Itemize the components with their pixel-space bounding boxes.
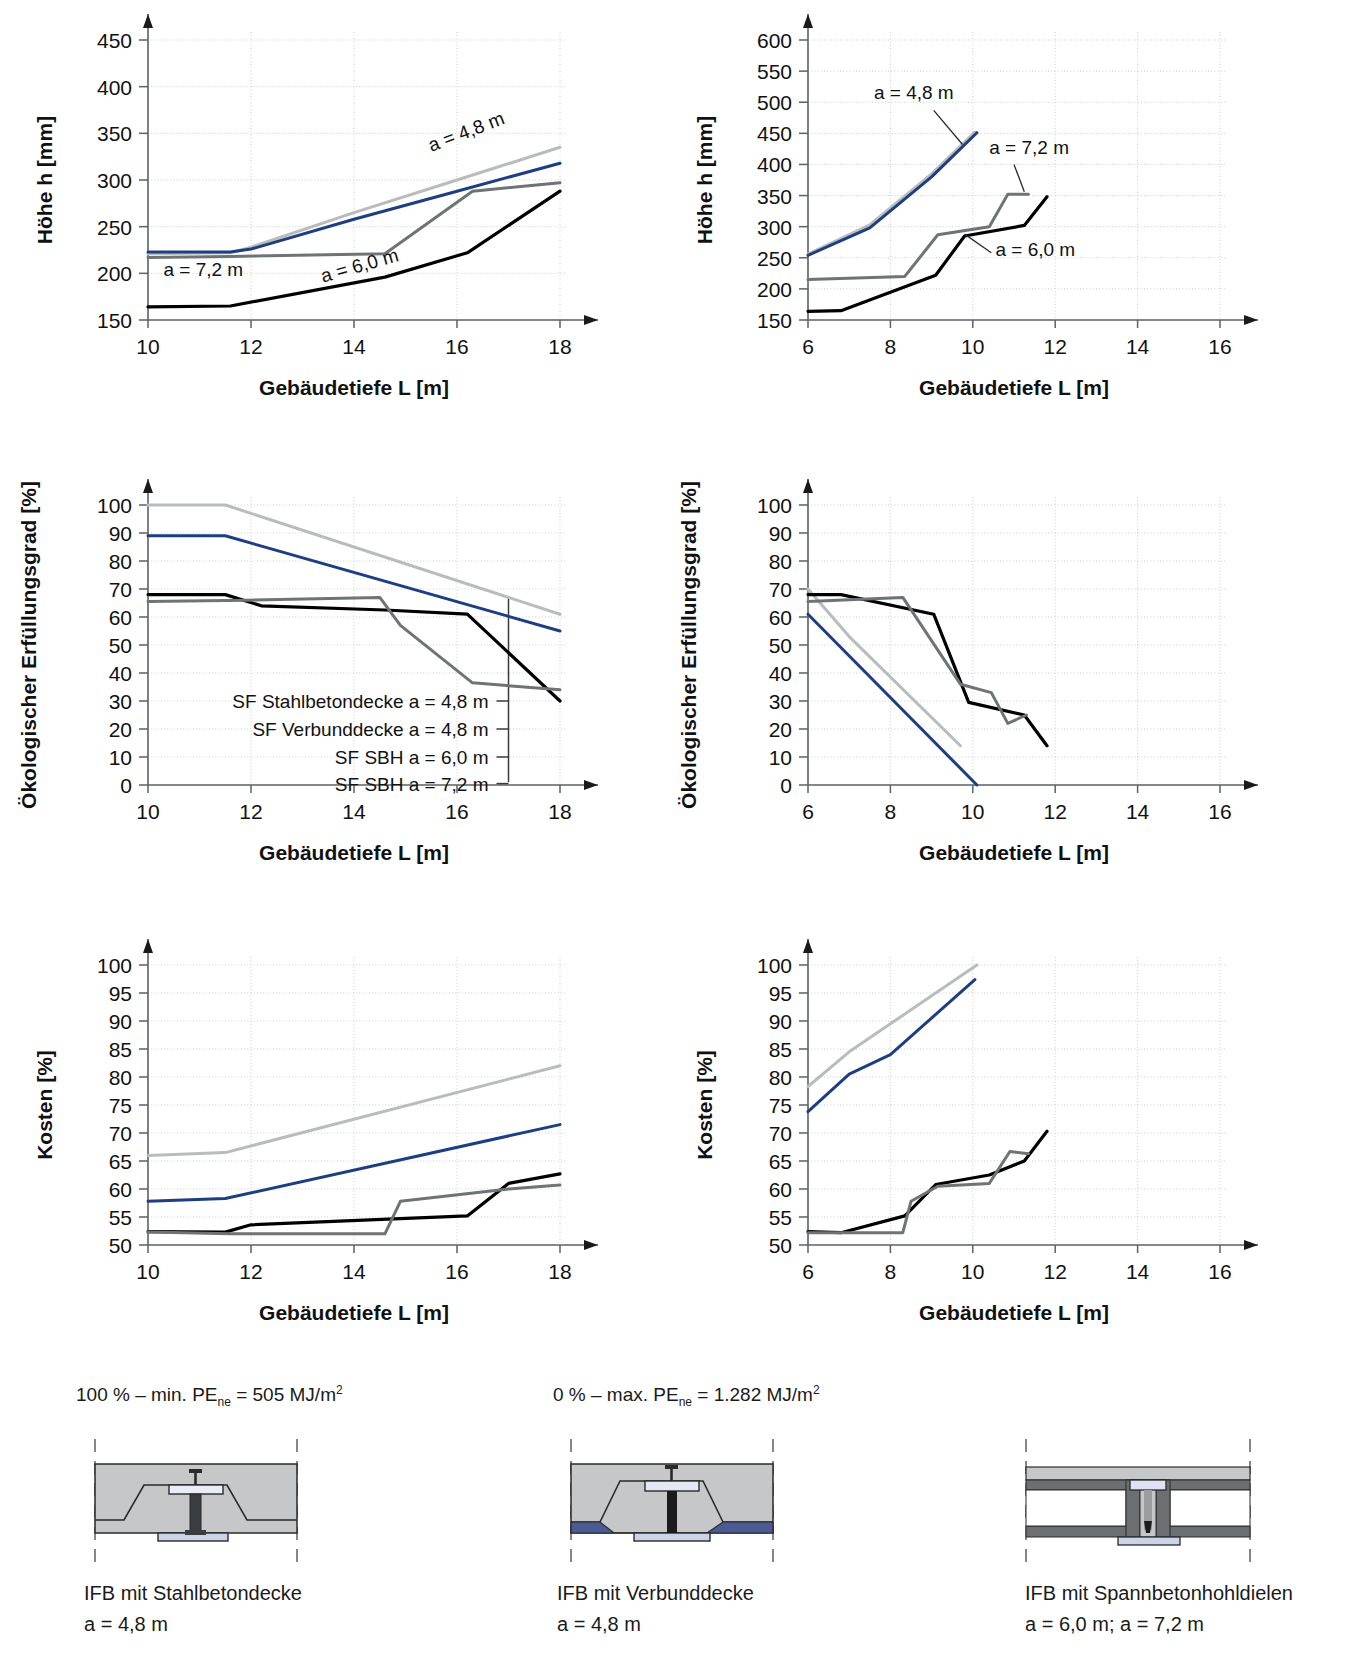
y-axis-arrow — [803, 939, 813, 953]
hollow-core-void-left — [1026, 1490, 1126, 1526]
x-tick-label: 12 — [1044, 335, 1067, 358]
x-tick-label: 14 — [1126, 335, 1150, 358]
kosten-rechts-svg: 505560657075808590951006810121416Gebäude… — [660, 925, 1320, 1390]
y-tick-label: 150 — [757, 309, 792, 332]
y-axis-title: Höhe h [mm] — [693, 116, 716, 244]
bottom-flange-plate — [634, 1533, 710, 1541]
y-tick-label: 400 — [757, 153, 792, 176]
y-tick-label: 40 — [769, 662, 792, 685]
y-tick-label: 85 — [769, 1038, 792, 1061]
y-axis-title: Höhe h [mm] — [33, 116, 56, 244]
y-tick-label: 65 — [769, 1150, 792, 1173]
chart-oeko-rechts: 01020304050607080901006810121416Gebäudet… — [660, 465, 1320, 930]
oeko-links-svg: 01020304050607080901001012141618Gebäudet… — [0, 465, 660, 930]
x-tick-label: 16 — [1208, 800, 1231, 823]
y-tick-label: 20 — [109, 718, 132, 741]
stud-head — [665, 1465, 678, 1469]
series-line-stahlbeton — [808, 589, 960, 746]
x-axis-arrow — [584, 1240, 598, 1250]
web — [190, 1494, 201, 1533]
y-tick-label: 40 — [109, 662, 132, 685]
y-tick-label: 75 — [769, 1094, 792, 1117]
y-tick-label: 250 — [757, 247, 792, 270]
y-tick-label: 300 — [97, 169, 132, 192]
y-tick-label: 75 — [109, 1094, 132, 1117]
chart-hoehe-links: 1502002503003504004501012141618Gebäudeti… — [0, 0, 660, 465]
chart-kosten-rechts: 505560657075808590951006810121416Gebäude… — [660, 925, 1320, 1390]
y-tick-label: 90 — [109, 1010, 132, 1033]
y-axis-title: Ökologischer Erfüllungsgrad [%] — [677, 481, 700, 809]
y-tick-label: 100 — [757, 954, 792, 977]
note-min-pe: 100 % – min. PEne = 505 MJ/m2 — [76, 1383, 343, 1409]
annotation-label: a = 6,0 m — [995, 239, 1075, 260]
y-tick-label: 50 — [769, 634, 792, 657]
web — [667, 1491, 677, 1533]
y-tick-label: 30 — [769, 690, 792, 713]
x-axis-arrow — [1244, 780, 1258, 790]
y-tick-label: 30 — [109, 690, 132, 713]
x-axis-arrow — [1244, 315, 1258, 325]
y-tick-label: 95 — [109, 982, 132, 1005]
y-axis-arrow — [143, 939, 153, 953]
y-tick-label: 100 — [757, 494, 792, 517]
y-axis-arrow — [803, 14, 813, 28]
legend-item-label: SF Stahlbetondecke a = 4,8 m — [232, 691, 488, 712]
y-tick-label: 450 — [757, 122, 792, 145]
y-tick-label: 80 — [769, 550, 792, 573]
caption-ifb-stahlbetondecke: IFB mit Stahlbetondecke a = 4,8 m — [84, 1578, 302, 1640]
y-tick-label: 90 — [769, 522, 792, 545]
x-tick-label: 12 — [239, 800, 262, 823]
y-tick-label: 55 — [769, 1206, 792, 1229]
series-line-verbund — [808, 614, 977, 785]
y-tick-label: 200 — [757, 278, 792, 301]
x-tick-label: 14 — [1126, 800, 1150, 823]
caption-ifb-verbunddecke: IFB mit Verbunddecke a = 4,8 m — [557, 1578, 754, 1640]
annotation-leader — [934, 110, 963, 144]
y-tick-label: 90 — [109, 522, 132, 545]
x-tick-label: 14 — [342, 800, 366, 823]
x-axis-title: Gebäudetiefe L [m] — [919, 376, 1109, 399]
y-tick-label: 150 — [97, 309, 132, 332]
y-tick-label: 65 — [109, 1150, 132, 1173]
topping-layer — [1026, 1467, 1250, 1480]
y-axis-arrow — [143, 14, 153, 28]
hoehe-rechts-svg: 1502002503003504004505005506006810121416… — [660, 0, 1320, 465]
y-tick-label: 550 — [757, 60, 792, 83]
legend-item-label: SF SBH a = 7,2 m — [335, 774, 489, 795]
y-tick-label: 70 — [109, 578, 132, 601]
x-tick-label: 6 — [802, 800, 814, 823]
y-tick-label: 400 — [97, 76, 132, 99]
y-tick-label: 350 — [757, 185, 792, 208]
caption-line-1: IFB mit Spannbetonhohldielen — [1025, 1578, 1293, 1609]
x-tick-label: 8 — [885, 335, 897, 358]
kosten-links-svg: 505560657075808590951001012141618Gebäude… — [0, 925, 660, 1390]
x-tick-label: 10 — [961, 1260, 984, 1283]
x-tick-label: 8 — [885, 800, 897, 823]
y-tick-label: 0 — [780, 774, 792, 797]
x-tick-label: 10 — [961, 800, 984, 823]
y-tick-label: 10 — [769, 746, 792, 769]
y-axis-arrow — [803, 479, 813, 493]
x-tick-label: 10 — [136, 1260, 159, 1283]
annotation-leader — [965, 234, 992, 253]
x-tick-label: 10 — [136, 335, 159, 358]
annotation-leader — [1014, 164, 1024, 191]
top-flange — [169, 1485, 223, 1494]
x-tick-label: 12 — [239, 1260, 262, 1283]
caption-line-2: a = 4,8 m — [84, 1609, 302, 1640]
y-tick-label: 250 — [97, 216, 132, 239]
y-tick-label: 20 — [769, 718, 792, 741]
x-tick-label: 14 — [342, 335, 366, 358]
y-axis-arrow — [143, 479, 153, 493]
y-tick-label: 500 — [757, 91, 792, 114]
y-tick-label: 10 — [109, 746, 132, 769]
caption-line-2: a = 6,0 m; a = 7,2 m — [1025, 1609, 1293, 1640]
x-tick-label: 16 — [1208, 1260, 1231, 1283]
y-tick-label: 50 — [109, 634, 132, 657]
x-tick-label: 16 — [445, 800, 468, 823]
y-tick-label: 95 — [769, 982, 792, 1005]
x-tick-label: 6 — [802, 335, 814, 358]
y-tick-label: 55 — [109, 1206, 132, 1229]
hollow-core-void-right — [1170, 1490, 1250, 1526]
x-tick-label: 14 — [1126, 1260, 1150, 1283]
